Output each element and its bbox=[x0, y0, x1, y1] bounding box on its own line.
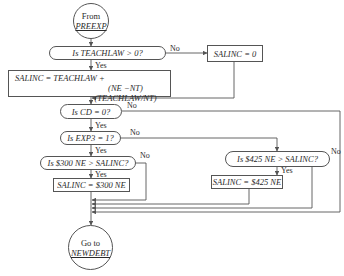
decision-exp3: Is EXP3 = 1? bbox=[60, 131, 121, 145]
label-yes-exp3: Yes bbox=[95, 146, 107, 155]
start-connector-preexp: From PREEXP bbox=[73, 3, 109, 39]
decision-300ne-text: Is $300 NE > SALINC? bbox=[48, 158, 129, 168]
decision-cd: Is CD = 0? bbox=[60, 104, 122, 119]
process-salinc-300ne-text: SALINC = $300 NE bbox=[57, 180, 125, 190]
label-no-300: No bbox=[140, 151, 150, 160]
end-label: Go to bbox=[81, 238, 100, 248]
connector-lines bbox=[0, 0, 344, 276]
label-yes-cd: Yes bbox=[95, 121, 107, 130]
end-target: NEWDEBT bbox=[71, 248, 110, 258]
process-salinc-zero: SALINC = 0 bbox=[207, 45, 263, 62]
end-connector-newdebt: Go to NEWDEBT bbox=[68, 225, 113, 270]
decision-teachlaw: Is TEACHLAW > 0? bbox=[49, 46, 166, 60]
start-target: PREEXP bbox=[75, 21, 106, 31]
process-salinc-formula: SALINC = TEACHLAW + (NE −NT) (TEACHLAW/N… bbox=[8, 70, 171, 97]
label-yes-425: Yes bbox=[281, 166, 293, 175]
label-yes-teachlaw: Yes bbox=[95, 61, 107, 70]
process-salinc-300ne: SALINC = $300 NE bbox=[53, 178, 130, 192]
decision-425ne-text: Is $425 NE > SALINC? bbox=[237, 154, 318, 164]
formula-line-2: (NE −NT) (TEACHLAW/NT) bbox=[15, 83, 164, 103]
label-no-exp3: No bbox=[130, 128, 140, 137]
label-no-425: No bbox=[331, 147, 341, 156]
decision-425ne: Is $425 NE > SALINC? bbox=[225, 151, 330, 167]
label-no-teachlaw: No bbox=[170, 44, 180, 53]
decision-300ne: Is $300 NE > SALINC? bbox=[40, 156, 136, 170]
process-salinc-425ne: SALINC = $425 NE bbox=[211, 175, 283, 189]
formula-line-1: SALINC = TEACHLAW + bbox=[15, 73, 105, 83]
label-no-cd: No bbox=[127, 101, 137, 110]
start-label: From bbox=[82, 11, 100, 21]
decision-cd-text: Is CD = 0? bbox=[72, 107, 111, 117]
process-salinc-zero-text: SALINC = 0 bbox=[214, 49, 257, 59]
process-salinc-425ne-text: SALINC = $425 NE bbox=[213, 177, 281, 187]
decision-exp3-text: Is EXP3 = 1? bbox=[67, 133, 114, 143]
decision-teachlaw-text: Is TEACHLAW > 0? bbox=[72, 48, 142, 58]
